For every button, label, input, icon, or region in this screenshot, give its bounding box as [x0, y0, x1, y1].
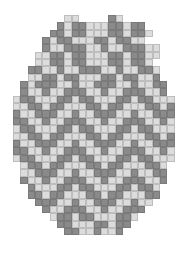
dark-bead-cell: [94, 199, 101, 206]
empty-cell: [167, 37, 174, 44]
light-bead-cell: [72, 125, 79, 132]
light-bead-cell: [64, 66, 71, 73]
dark-bead-cell: [64, 184, 71, 191]
dark-bead-cell: [167, 133, 174, 140]
dark-bead-cell: [20, 88, 27, 95]
empty-cell: [160, 37, 167, 44]
light-bead-cell: [116, 44, 123, 51]
dark-bead-cell: [42, 147, 49, 154]
light-bead-cell: [50, 147, 57, 154]
light-bead-cell: [86, 221, 93, 228]
dark-bead-cell: [72, 74, 79, 81]
light-bead-cell: [28, 169, 35, 176]
light-bead-cell: [131, 191, 138, 198]
light-bead-cell: [50, 66, 57, 73]
empty-cell: [28, 206, 35, 213]
light-bead-cell: [50, 37, 57, 44]
dark-bead-cell: [35, 81, 42, 88]
light-bead-cell: [86, 177, 93, 184]
light-bead-cell: [28, 140, 35, 147]
dark-bead-cell: [35, 199, 42, 206]
dark-bead-cell: [131, 177, 138, 184]
dark-bead-cell: [94, 66, 101, 73]
dark-bead-cell: [57, 59, 64, 66]
dark-bead-cell: [167, 140, 174, 147]
dark-bead-cell: [20, 81, 27, 88]
light-bead-cell: [153, 52, 160, 59]
empty-cell: [167, 184, 174, 191]
dark-bead-cell: [72, 206, 79, 213]
light-bead-cell: [57, 169, 64, 176]
light-bead-cell: [79, 162, 86, 169]
dark-bead-cell: [145, 184, 152, 191]
dark-bead-cell: [123, 155, 130, 162]
dark-bead-cell: [79, 30, 86, 37]
light-bead-cell: [50, 96, 57, 103]
dark-bead-cell: [94, 110, 101, 117]
light-bead-cell: [57, 81, 64, 88]
dark-bead-cell: [108, 103, 115, 110]
pattern-row: [13, 22, 175, 29]
dark-bead-cell: [42, 206, 49, 213]
dark-bead-cell: [42, 140, 49, 147]
empty-cell: [20, 199, 27, 206]
empty-cell: [57, 15, 64, 22]
dark-bead-cell: [35, 140, 42, 147]
light-bead-cell: [86, 52, 93, 59]
pattern-row: [13, 96, 175, 103]
empty-cell: [20, 66, 27, 73]
dark-bead-cell: [50, 110, 57, 117]
empty-cell: [138, 221, 145, 228]
light-bead-cell: [116, 177, 123, 184]
light-bead-cell: [101, 191, 108, 198]
dark-bead-cell: [94, 81, 101, 88]
dark-bead-cell: [50, 169, 57, 176]
empty-cell: [13, 22, 20, 29]
light-bead-cell: [101, 213, 108, 220]
light-bead-cell: [123, 191, 130, 198]
empty-cell: [153, 221, 160, 228]
light-bead-cell: [28, 88, 35, 95]
light-bead-cell: [167, 147, 174, 154]
dark-bead-cell: [101, 221, 108, 228]
dark-bead-cell: [108, 191, 115, 198]
light-bead-cell: [101, 184, 108, 191]
dark-bead-cell: [79, 52, 86, 59]
light-bead-cell: [145, 30, 152, 37]
empty-cell: [28, 37, 35, 44]
light-bead-cell: [101, 96, 108, 103]
dark-bead-cell: [116, 221, 123, 228]
light-bead-cell: [13, 96, 20, 103]
light-bead-cell: [160, 96, 167, 103]
dark-bead-cell: [108, 169, 115, 176]
light-bead-cell: [72, 96, 79, 103]
empty-cell: [13, 52, 20, 59]
light-bead-cell: [94, 206, 101, 213]
dark-bead-cell: [57, 96, 64, 103]
dark-bead-cell: [116, 22, 123, 29]
light-bead-cell: [35, 96, 42, 103]
dark-bead-cell: [64, 96, 71, 103]
light-bead-cell: [42, 125, 49, 132]
dark-bead-cell: [116, 162, 123, 169]
light-bead-cell: [116, 15, 123, 22]
pattern-row: [13, 140, 175, 147]
light-bead-cell: [86, 30, 93, 37]
light-bead-cell: [108, 213, 115, 220]
empty-cell: [35, 37, 42, 44]
dark-bead-cell: [94, 103, 101, 110]
light-bead-cell: [64, 199, 71, 206]
light-bead-cell: [123, 103, 130, 110]
light-bead-cell: [131, 213, 138, 220]
empty-cell: [167, 221, 174, 228]
dark-bead-cell: [72, 199, 79, 206]
empty-cell: [28, 15, 35, 22]
dark-bead-cell: [101, 118, 108, 125]
light-bead-cell: [131, 155, 138, 162]
light-bead-cell: [57, 177, 64, 184]
light-bead-cell: [35, 184, 42, 191]
empty-cell: [167, 162, 174, 169]
light-bead-cell: [138, 110, 145, 117]
light-bead-cell: [86, 140, 93, 147]
dark-bead-cell: [64, 177, 71, 184]
